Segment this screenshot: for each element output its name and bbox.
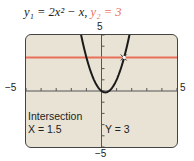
calculator-screen: Intersection X = 1.5 Y = 3 <box>25 34 178 148</box>
equation-y2: y₂ = 3 <box>91 5 122 19</box>
y1-parabola <box>74 35 135 92</box>
x-min-label: −5 <box>5 82 16 93</box>
readout-x: X = 1.5 <box>28 123 62 135</box>
equation-header: y₁ = 2x² − x, y₂ = 3 <box>24 5 121 20</box>
readout-title: Intersection <box>28 110 82 122</box>
readout-y: Y = 3 <box>105 123 130 135</box>
y-max-label: 5 <box>97 21 103 32</box>
y-min-label: −5 <box>95 148 106 159</box>
equation-y1: y₁ = 2x² − x, <box>24 5 87 19</box>
x-max-label: 5 <box>180 82 186 93</box>
